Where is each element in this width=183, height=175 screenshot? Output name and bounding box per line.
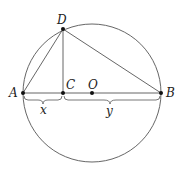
point-a xyxy=(21,91,25,95)
label-a: A xyxy=(8,86,18,100)
label-x: x xyxy=(40,103,47,117)
label-y: y xyxy=(105,104,113,118)
segment-db xyxy=(63,29,161,93)
geometry-diagram: A B C O D x y xyxy=(0,0,183,175)
segment-ad xyxy=(23,29,63,93)
brace-y xyxy=(64,96,160,104)
label-b: B xyxy=(165,86,175,100)
label-o: O xyxy=(88,78,98,92)
point-d xyxy=(61,27,65,31)
label-c: C xyxy=(66,78,75,92)
point-b xyxy=(159,91,163,95)
point-c xyxy=(61,91,65,95)
label-d: D xyxy=(56,13,67,27)
